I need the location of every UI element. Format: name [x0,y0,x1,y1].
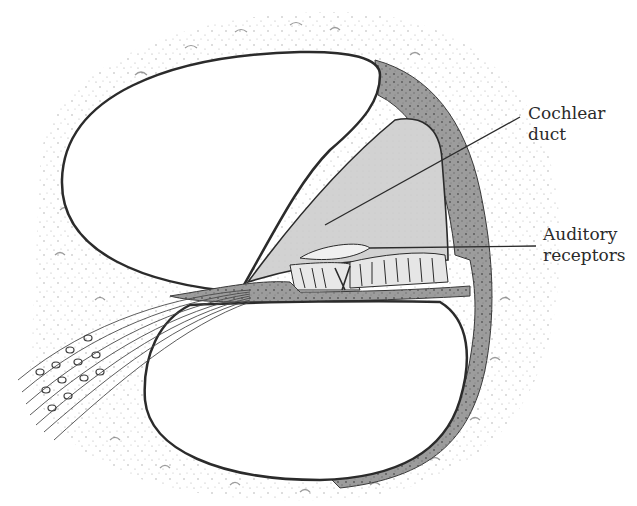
cochlea-cross-section-diagram [0,0,637,506]
lower-chamber [145,301,467,480]
cochlear-duct-label-line-2: duct [528,124,605,145]
auditory-receptors-label-line-2: receptors [543,245,626,266]
cochlear-duct-label: Cochlear duct [528,103,605,145]
auditory-receptors-label-line-1: Auditory [543,224,626,245]
auditory-receptors-label: Auditory receptors [543,224,626,266]
cochlear-duct-label-line-1: Cochlear [528,103,605,124]
